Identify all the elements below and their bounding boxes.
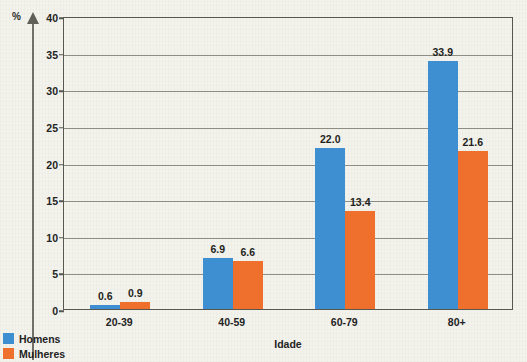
y-axis-tick-mark [59, 17, 64, 19]
bar-value-label: 6.9 [210, 243, 225, 255]
bar-value-label: 6.6 [240, 246, 255, 258]
y-axis-tick-label: 5 [52, 268, 58, 280]
x-axis-category-label: 20-39 [106, 316, 133, 328]
bar-mulheres-40-59: 6.6 [233, 261, 263, 309]
y-axis-tick-label: 20 [46, 159, 58, 171]
y-axis-tick-label: 0 [52, 305, 58, 317]
y-axis-tick-label: 15 [46, 195, 58, 207]
x-axis-category-label: 80+ [448, 316, 466, 328]
chart-legend: HomensMulheres [3, 331, 65, 361]
x-axis-category-label: 60-79 [331, 316, 358, 328]
bar-homens-40-59: 6.9 [203, 258, 233, 309]
legend-item: Mulheres [3, 346, 65, 361]
bar-value-label: 22.0 [320, 133, 340, 145]
bar-homens-80+: 33.9 [428, 61, 458, 309]
y-axis-tick-label: 35 [46, 49, 58, 61]
legend-color-swatch [3, 348, 14, 359]
y-axis-tick-mark [59, 274, 64, 276]
bar-value-label: 13.4 [350, 196, 370, 208]
y-axis-tick-mark [59, 237, 64, 239]
y-axis-tick-mark [59, 200, 64, 202]
bar-mulheres-20-39: 0.9 [120, 302, 150, 309]
legend-label: Mulheres [19, 348, 65, 360]
y-axis-tick-mark [59, 91, 64, 93]
y-axis-tick-mark [59, 54, 64, 56]
bar-homens-60-79: 22.0 [315, 148, 345, 309]
bar-chart-figure: % 0510152025303540 0.60.96.96.622.013.43… [0, 0, 527, 362]
y-axis-arrow-line [32, 22, 34, 360]
bar-homens-20-39: 0.6 [90, 305, 120, 309]
y-axis-arrow-icon [27, 12, 39, 24]
legend-item: Homens [3, 331, 65, 346]
y-axis-unit-label: % [12, 11, 21, 22]
bar-value-label: 33.9 [433, 46, 453, 58]
x-axis-category-label: 40-59 [218, 316, 245, 328]
legend-label: Homens [19, 333, 60, 345]
bar-value-label: 0.9 [128, 287, 143, 299]
y-axis-tick-mark [59, 127, 64, 129]
bar-mulheres-60-79: 13.4 [345, 211, 375, 309]
plot-area: 0510152025303540 0.60.96.96.622.013.433.… [63, 17, 513, 310]
x-axis-title: Idade [274, 338, 301, 350]
bar-value-label: 21.6 [463, 136, 483, 148]
bar-mulheres-80+: 21.6 [458, 151, 488, 309]
y-axis-tick-mark [59, 164, 64, 166]
y-axis-tick-label: 25 [46, 122, 58, 134]
y-axis-tick-label: 40 [46, 12, 58, 24]
bar-value-label: 0.6 [98, 290, 113, 302]
y-axis-tick-label: 30 [46, 85, 58, 97]
y-axis-tick-label: 10 [46, 232, 58, 244]
legend-color-swatch [3, 333, 14, 344]
y-axis-tick-mark [59, 310, 64, 312]
